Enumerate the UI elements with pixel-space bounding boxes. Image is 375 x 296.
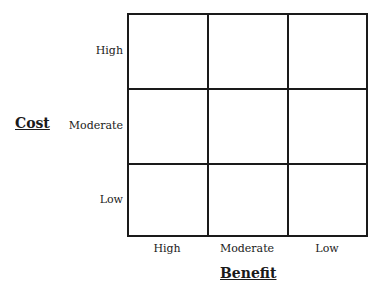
y-label-high: High <box>96 44 123 57</box>
x-axis-title: Benefit <box>220 265 276 281</box>
cell-high-cost-moderate-benefit <box>209 15 287 88</box>
cell-moderate-cost-high-benefit <box>129 90 207 163</box>
y-label-moderate: Moderate <box>69 119 123 132</box>
cell-high-cost-high-benefit <box>129 15 207 88</box>
cell-moderate-cost-moderate-benefit <box>209 90 287 163</box>
x-label-low: Low <box>287 242 367 255</box>
cell-low-cost-moderate-benefit <box>209 165 287 235</box>
x-label-moderate: Moderate <box>207 242 287 255</box>
cell-low-cost-low-benefit <box>289 165 366 235</box>
cell-high-cost-low-benefit <box>289 15 366 88</box>
y-label-low: Low <box>100 193 123 206</box>
cell-moderate-cost-low-benefit <box>289 90 366 163</box>
y-axis-title: Cost <box>15 115 50 131</box>
x-label-high: High <box>127 242 207 255</box>
matrix-grid <box>127 13 368 237</box>
cell-low-cost-high-benefit <box>129 165 207 235</box>
